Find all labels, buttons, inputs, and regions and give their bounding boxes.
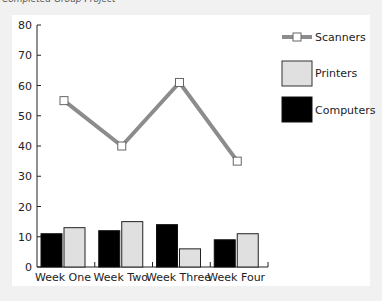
x-tick-label: Week Two — [94, 271, 149, 284]
marker-scanners — [233, 157, 241, 165]
legend-scanners-label: Scanners — [315, 31, 366, 44]
bar-printers — [237, 234, 258, 267]
bar-printers — [122, 222, 143, 267]
y-tick-label: 30 — [18, 170, 32, 183]
y-tick-label: 70 — [18, 49, 32, 62]
y-tick-label: 80 — [18, 19, 32, 32]
legend-scanners-marker — [293, 33, 301, 41]
x-tick-label: Week One — [35, 271, 91, 284]
marker-scanners — [176, 78, 184, 86]
bar-computers — [157, 225, 178, 267]
y-tick-label: 20 — [18, 201, 32, 214]
y-tick-label: 0 — [25, 261, 32, 274]
bar-printers — [180, 249, 201, 267]
y-tick-label: 60 — [18, 80, 32, 93]
chart: 01020304050607080Week OneWeek TwoWeek Th… — [0, 0, 382, 301]
bar-computers — [41, 234, 62, 267]
y-tick-label: 40 — [18, 140, 32, 153]
bar-computers — [99, 231, 120, 267]
y-tick-label: 50 — [18, 110, 32, 123]
legend-computers-swatch — [282, 97, 312, 122]
x-tick-label: Week Three — [146, 271, 211, 284]
x-tick-label: Week Four — [207, 271, 265, 284]
y-tick-label: 10 — [18, 231, 32, 244]
legend-printers-label: Printers — [315, 67, 358, 80]
legend-printers-swatch — [282, 61, 312, 86]
marker-scanners — [60, 97, 68, 105]
legend-computers-label: Computers — [315, 104, 376, 117]
marker-scanners — [118, 142, 126, 150]
bar-printers — [64, 228, 85, 267]
bar-computers — [214, 240, 235, 267]
line-scanners — [64, 82, 237, 161]
